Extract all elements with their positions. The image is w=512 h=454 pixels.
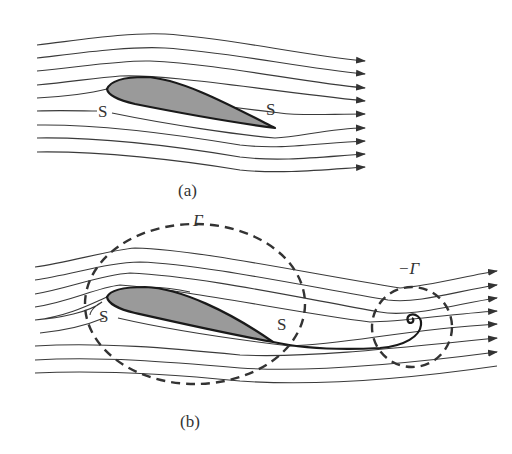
starting-vortex-label: −Γ	[398, 259, 420, 278]
stagnation-label-leading-a: S	[98, 102, 107, 121]
starting-vortex-contour	[372, 287, 452, 367]
stagnation-label-trailing-a: S	[266, 100, 275, 119]
bound-circulation-label: Γ	[192, 211, 204, 230]
caption-a: (a)	[178, 181, 197, 200]
panel-b: S S Γ −Γ (b)	[35, 211, 497, 431]
panel-a: S S (a)	[37, 34, 365, 200]
caption-b: (b)	[180, 412, 200, 431]
stagnation-label-trailing-b: S	[277, 315, 286, 334]
airfoil-circulation-diagram: S S (a) S S Γ −Γ (b)	[0, 0, 512, 454]
diagram-canvas: S S (a) S S Γ −Γ (b)	[0, 0, 512, 454]
airfoil-a	[107, 77, 275, 128]
airfoil-b	[107, 287, 273, 342]
stagnation-label-leading-b: S	[99, 307, 108, 326]
trailing-vortex-sheet	[273, 314, 421, 348]
